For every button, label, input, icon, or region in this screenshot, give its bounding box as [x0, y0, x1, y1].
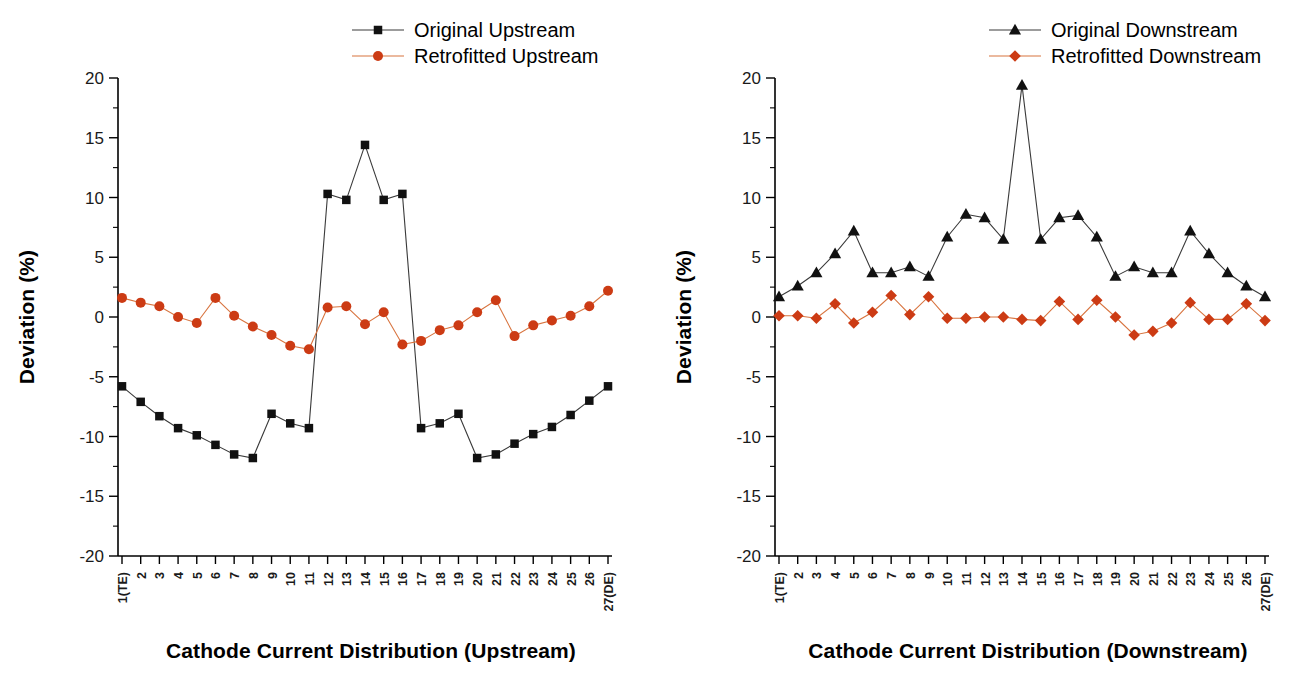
legend-entry-label: Retrofitted Downstream: [1051, 45, 1261, 67]
data-point-marker: [416, 336, 426, 346]
data-point-marker: [510, 331, 520, 341]
data-point-marker: [960, 312, 972, 324]
data-point-marker: [473, 454, 482, 463]
x-tick-label: 19: [452, 572, 466, 586]
data-point-marker: [230, 450, 239, 459]
data-point-marker: [566, 411, 575, 420]
x-tick-label: 21: [1147, 572, 1161, 586]
data-point-marker: [1165, 267, 1177, 278]
data-point-marker: [229, 311, 239, 321]
data-point-marker: [285, 341, 295, 351]
x-tick-label: 21: [490, 572, 504, 586]
downstream-chart-svg: 20151050-5-10-15-201(TE)2345678910111213…: [657, 0, 1314, 684]
x-tick-label: 8: [247, 572, 261, 579]
data-point-marker: [548, 423, 557, 432]
x-tick-label: 25: [565, 572, 579, 586]
y-tick-label: -15: [736, 487, 761, 506]
figure-two-panel-chart: 20151050-5-10-15-201(TE)2345678910111213…: [0, 0, 1314, 684]
x-tick-label: 27(DE): [602, 572, 616, 612]
data-point-marker: [193, 431, 202, 440]
x-tick-label: 1(TE): [116, 572, 130, 603]
y-tick-label: -20: [736, 547, 761, 566]
upstream-chart-svg: 20151050-5-10-15-201(TE)2345678910111213…: [0, 0, 657, 684]
data-point-marker: [566, 311, 576, 321]
x-tick-label: 2: [135, 572, 149, 579]
data-point-marker: [811, 312, 823, 324]
data-point-marker: [848, 225, 860, 236]
x-tick-label: 11: [960, 572, 974, 585]
data-point-marker: [341, 301, 351, 311]
data-point-marker: [510, 439, 519, 448]
x-tick-label: 11: [303, 572, 317, 585]
x-axis-title: Cathode Current Distribution (Downstream…: [808, 639, 1247, 662]
x-tick-label: 17: [1072, 572, 1086, 586]
data-point-marker: [1147, 326, 1159, 338]
x-tick-label: 8: [904, 572, 918, 579]
data-point-marker: [1109, 270, 1121, 281]
x-tick-label: 6: [209, 572, 223, 579]
x-tick-label: 16: [1053, 572, 1067, 586]
data-point-marker: [1016, 314, 1028, 326]
data-point-marker: [323, 302, 333, 312]
y-tick-label: 10: [742, 189, 761, 208]
x-tick-label: 4: [829, 572, 843, 579]
x-tick-label: 20: [1128, 572, 1142, 586]
x-tick-label: 14: [1016, 572, 1030, 586]
legend: Original UpstreamRetrofitted Upstream: [352, 19, 599, 67]
data-point-marker: [323, 190, 332, 199]
data-point-marker: [547, 316, 557, 326]
data-point-marker: [528, 320, 538, 330]
x-tick-label: 6: [866, 572, 880, 579]
y-tick-label: -10: [736, 428, 761, 447]
x-axis-title: Cathode Current Distribution (Upstream): [166, 639, 576, 662]
y-tick-label: -20: [79, 547, 104, 566]
data-point-marker: [398, 190, 407, 199]
y-tick-label: 5: [752, 248, 761, 267]
data-point-marker: [154, 301, 164, 311]
data-point-marker: [397, 339, 407, 349]
data-point-marker: [304, 344, 314, 354]
x-tick-label: 18: [434, 572, 448, 586]
data-point-marker: [173, 312, 183, 322]
legend-entry-label: Retrofitted Upstream: [414, 45, 599, 67]
data-point-marker: [379, 307, 389, 317]
data-point-marker: [866, 267, 878, 278]
panel-downstream: 20151050-5-10-15-201(TE)2345678910111213…: [657, 0, 1314, 684]
legend-entry-label: Original Downstream: [1051, 19, 1238, 41]
series-line: [779, 85, 1265, 297]
data-point-marker: [1072, 209, 1084, 220]
data-point-marker: [249, 454, 258, 463]
data-point-marker: [1184, 225, 1196, 236]
y-tick-label: 0: [752, 308, 761, 327]
circle-marker-icon: [373, 51, 383, 61]
data-point-marker: [584, 301, 594, 311]
x-tick-label: 26: [583, 572, 597, 586]
data-point-marker: [1259, 290, 1271, 301]
x-tick-label: 12: [979, 572, 993, 586]
x-tick-label: 17: [415, 572, 429, 586]
y-tick-label: 10: [85, 189, 104, 208]
y-axis-title: Deviation (%): [15, 250, 38, 384]
x-tick-label: 3: [810, 572, 824, 579]
triangle-marker-icon: [1009, 24, 1021, 35]
data-point-marker: [136, 398, 145, 407]
x-tick-label: 9: [266, 572, 280, 579]
data-point-marker: [305, 424, 314, 433]
y-tick-label: 20: [85, 69, 104, 88]
data-point-marker: [453, 320, 463, 330]
data-point-marker: [585, 396, 594, 405]
data-point-marker: [211, 441, 220, 450]
data-point-marker: [360, 319, 370, 329]
x-tick-label: 27(DE): [1259, 572, 1273, 612]
y-tick-label: 0: [95, 308, 104, 327]
x-tick-label: 5: [191, 572, 205, 579]
data-point-marker: [922, 270, 934, 281]
data-point-marker: [155, 412, 164, 421]
x-tick-label: 16: [396, 572, 410, 586]
data-point-marker: [248, 322, 258, 332]
x-tick-label: 24: [1203, 572, 1217, 586]
series-line: [122, 145, 608, 458]
legend-entry-label: Original Upstream: [414, 19, 575, 41]
x-tick-label: 15: [1035, 572, 1049, 586]
data-point-marker: [118, 382, 127, 391]
